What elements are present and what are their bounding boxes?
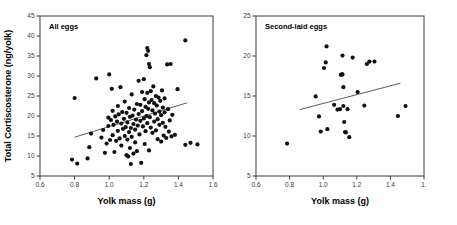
data-point <box>137 79 141 83</box>
data-point <box>111 123 115 127</box>
data-point <box>109 118 113 122</box>
data-point <box>140 90 144 94</box>
data-point <box>338 107 342 111</box>
data-point <box>108 138 112 142</box>
data-point <box>130 114 134 118</box>
data-point <box>119 122 123 126</box>
data-point <box>367 60 371 64</box>
data-point <box>147 148 151 152</box>
data-point <box>89 132 93 136</box>
data-point <box>70 158 74 162</box>
data-point <box>163 125 167 129</box>
x-axis-tick-label: 1.0 <box>105 181 114 188</box>
x-axis-tick-label: 1.2 <box>352 181 361 188</box>
data-point <box>143 142 147 146</box>
data-point <box>144 53 148 57</box>
x-axis-tick-label: 1.4 <box>386 181 395 188</box>
data-point <box>133 140 137 144</box>
y-axis-tick-label: 15 <box>27 132 35 139</box>
data-point <box>162 96 166 100</box>
data-point <box>135 149 139 153</box>
data-point <box>170 113 174 117</box>
data-point <box>317 114 321 118</box>
data-point <box>124 125 128 129</box>
data-point <box>160 88 164 92</box>
x-axis-tick-label: 1.6 <box>208 181 217 188</box>
data-point <box>159 113 163 117</box>
data-point <box>314 94 318 98</box>
data-point <box>166 107 170 111</box>
data-point <box>138 103 142 107</box>
x-axis-tick-label: 1.2 <box>139 181 148 188</box>
data-point <box>156 137 160 141</box>
data-point <box>325 127 329 131</box>
data-point <box>129 126 133 130</box>
data-point <box>162 110 166 114</box>
data-point <box>130 135 134 139</box>
data-point <box>123 134 127 138</box>
y-axis-tick-label: 5 <box>31 172 35 179</box>
data-point <box>124 111 128 115</box>
data-point <box>169 62 173 66</box>
x-axis-tick-label: 0.6 <box>35 181 44 188</box>
data-point <box>168 118 172 122</box>
x-axis-title: Yolk mass (g) <box>311 196 369 206</box>
data-point <box>85 156 89 160</box>
data-point <box>183 38 187 42</box>
chart-second-laid-eggs: 0.60.81.01.21.41.510152025Second-laid eg… <box>228 0 457 225</box>
data-point <box>183 143 187 147</box>
panel-all-eggs: 0.60.81.01.21.41.651015202530354045All e… <box>0 0 229 225</box>
data-point <box>134 118 138 122</box>
data-point <box>131 122 135 126</box>
data-point <box>151 84 155 88</box>
data-point <box>154 128 158 132</box>
data-point <box>73 96 77 100</box>
data-point <box>403 104 407 108</box>
data-point <box>116 104 120 108</box>
data-point <box>127 130 131 134</box>
y-axis-tick-label: 20 <box>27 112 35 119</box>
data-point <box>140 109 144 113</box>
data-point <box>340 54 344 58</box>
data-point <box>341 104 345 108</box>
data-point <box>155 104 159 108</box>
data-point <box>101 128 105 132</box>
data-point <box>128 146 132 150</box>
x-axis-tick-label: 1. <box>421 181 427 188</box>
panel-title: All eggs <box>49 22 78 31</box>
x-axis-tick-label: 0.6 <box>251 181 260 188</box>
data-point <box>167 130 171 134</box>
data-point <box>148 65 152 69</box>
data-point <box>344 130 348 134</box>
data-point <box>125 138 129 142</box>
x-axis-title: Yolk mass (g) <box>98 196 156 206</box>
data-point <box>122 117 126 121</box>
y-axis-tick-label: 25 <box>27 92 35 99</box>
data-point <box>164 136 168 140</box>
data-point <box>324 60 328 64</box>
y-axis-tick-label: 5 <box>247 172 251 179</box>
data-point <box>158 99 162 103</box>
data-point <box>145 121 149 125</box>
data-point <box>342 120 346 124</box>
data-point <box>362 104 366 108</box>
data-point <box>103 151 107 155</box>
y-axis-tick-label: 10 <box>243 132 251 139</box>
data-point <box>285 142 289 146</box>
data-point <box>112 150 116 154</box>
data-point <box>149 126 153 130</box>
data-point <box>130 92 134 96</box>
data-point <box>87 145 91 149</box>
data-point <box>173 133 177 137</box>
data-point <box>127 106 131 110</box>
data-point <box>106 124 110 128</box>
data-point <box>356 90 360 94</box>
y-axis-tick-label: 20 <box>243 52 251 59</box>
y-axis-tick-label: 15 <box>243 92 251 99</box>
data-point <box>126 154 130 158</box>
data-point <box>133 128 137 132</box>
data-point <box>132 108 136 112</box>
y-axis-tick-label: 35 <box>27 52 35 59</box>
data-point <box>143 129 147 133</box>
data-point <box>396 114 400 118</box>
